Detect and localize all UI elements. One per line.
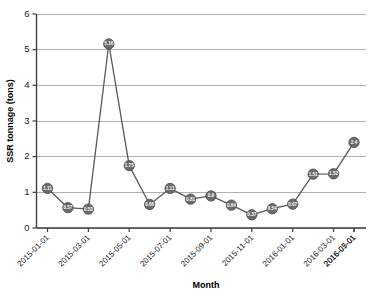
data-point-label: 0.9: [208, 193, 215, 198]
data-point-label: 0.54: [268, 206, 277, 211]
data-point-label: 0.37: [247, 212, 256, 217]
y-axis-title: SSR tonnage (tons): [5, 79, 15, 163]
x-tick-label: 2015-09-01: [179, 233, 215, 269]
x-tick-labels-group: 2015-01-012015-03-012015-05-012015-07-01…: [16, 233, 358, 269]
data-point-label: 5.16: [104, 41, 113, 46]
data-point-label: 0.57: [63, 205, 72, 210]
x-axis-title: Month: [193, 280, 220, 290]
y-tick-label: 3: [24, 115, 29, 126]
x-tick-label: 2015-11-01: [220, 233, 255, 268]
data-point-label: 0.64: [227, 203, 236, 208]
data-point-label: 0.66: [145, 202, 154, 207]
x-tick-label: 2015-01-01: [16, 233, 52, 269]
data-point-label: 1.52: [329, 171, 338, 176]
gridlines-group: [37, 14, 367, 228]
data-point-label: 1.11: [166, 186, 175, 191]
ssr-tonnage-line-chart: 0123456 2015-01-012015-03-012015-05-0120…: [0, 0, 378, 296]
y-tick-label: 6: [24, 8, 29, 19]
data-point-label: 0.81: [186, 197, 195, 202]
data-point-label: 1.51: [309, 172, 318, 177]
data-point-label: 0.67: [288, 202, 297, 207]
y-tick-label: 5: [24, 43, 29, 54]
y-tick-label: 1: [24, 186, 29, 197]
data-point-label: 1.75: [125, 163, 134, 168]
x-tick-label: 2015-03-01: [56, 233, 92, 269]
y-tick-label: 0: [24, 222, 29, 233]
data-point-label: 1.11: [43, 186, 52, 191]
x-tick-label: 2016-01-01: [261, 233, 297, 269]
x-tick-label: 2015-07-01: [138, 233, 174, 269]
data-point-label: 0.53: [84, 207, 93, 212]
y-tick-label: 2: [24, 150, 29, 161]
x-tick-label: 2015-05-01: [97, 233, 133, 269]
series-line-ssr-tonnage: [48, 44, 355, 215]
data-point-label: 2.4: [351, 140, 358, 145]
y-tick-labels-group: 0123456: [24, 8, 29, 233]
y-tick-label: 4: [24, 79, 29, 90]
chart-container: 0123456 2015-01-012015-03-012015-05-0120…: [0, 0, 378, 296]
